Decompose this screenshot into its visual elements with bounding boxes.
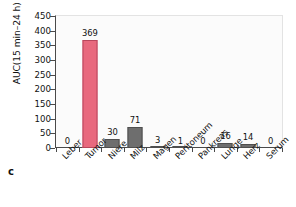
x-tick-mark <box>56 148 57 152</box>
bar-group: 1 <box>169 16 192 148</box>
y-tick-label: 350 <box>25 40 51 50</box>
y-tick-label: 250 <box>25 70 51 80</box>
y-tick-mark <box>50 104 55 105</box>
bar-group: 71 <box>124 16 147 148</box>
bar-group: 0 <box>56 16 79 148</box>
bar-series: 0369307131016140 <box>56 16 282 148</box>
bar-value-label: 30 <box>107 127 118 137</box>
bar-value-label: 14 <box>243 132 254 142</box>
bar-group: 30 <box>101 16 124 148</box>
y-tick-mark <box>50 16 55 17</box>
bar-value-label: 71 <box>130 115 141 125</box>
y-tick-label: 450 <box>25 11 51 21</box>
bar-group: 3 <box>146 16 169 148</box>
bar-group: 16 <box>214 16 237 148</box>
y-tick-mark <box>50 148 55 149</box>
bar-group: 0 <box>259 16 282 148</box>
panel-letter: c <box>8 166 14 177</box>
y-tick-mark <box>50 60 55 61</box>
y-tick-label: 0 <box>25 143 51 153</box>
bar-value-label: 369 <box>82 28 98 38</box>
y-tick-mark <box>50 45 55 46</box>
y-tick-label: 300 <box>25 55 51 65</box>
y-tick-label: 400 <box>25 26 51 36</box>
bar-tumor[interactable] <box>82 40 97 148</box>
y-tick-mark <box>50 89 55 90</box>
figure-panel-c: c AUC(15 min–24 h) µg/g*min 050100150200… <box>0 0 296 207</box>
bar-group: 14 <box>237 16 260 148</box>
y-tick-label: 200 <box>25 84 51 94</box>
y-tick-label: 50 <box>25 128 51 138</box>
y-tick-label: 100 <box>25 114 51 124</box>
y-tick-mark <box>50 119 55 120</box>
y-axis-title: AUC(15 min–24 h) µg/g*min <box>9 0 23 89</box>
y-tick-label: 150 <box>25 99 51 109</box>
y-tick-mark <box>50 31 55 32</box>
bar-group: 369 <box>79 16 102 148</box>
y-tick-mark <box>50 133 55 134</box>
y-tick-mark <box>50 75 55 76</box>
y-axis-title-text: AUC(15 min–24 h) µg/g*min <box>11 0 22 84</box>
